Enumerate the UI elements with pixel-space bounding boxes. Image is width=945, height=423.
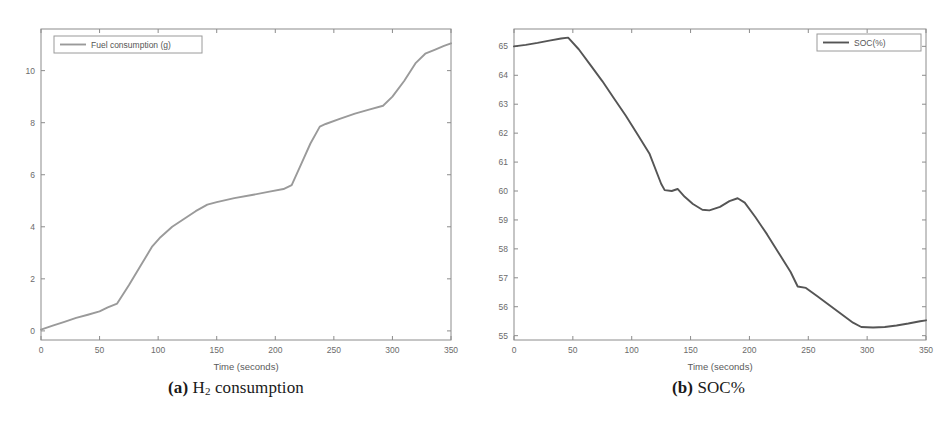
chart-a-svg: 0501001502002503003500246810Time (second… [0, 0, 472, 375]
x-tick-label: 150 [210, 345, 224, 355]
y-tick-label: 63 [499, 99, 509, 109]
chart-a-legend[interactable]: Fuel consumption (g) [54, 36, 202, 53]
y-tick-label: 55 [499, 331, 509, 341]
y-tick-label: 60 [499, 186, 509, 196]
caption-a-prefix: (a) [168, 378, 188, 397]
y-tick-label: 56 [499, 302, 509, 312]
legend-label: Fuel consumption (g) [91, 40, 171, 50]
y-tick-label: 61 [499, 157, 509, 167]
x-tick-label: 0 [39, 345, 44, 355]
chart-a-xaxis-label: Time (seconds) [213, 361, 278, 372]
x-tick-label: 300 [385, 345, 399, 355]
y-tick-label: 65 [499, 41, 509, 51]
chart-a-plot-area: 0501001502002503003500246810Time (second… [0, 0, 472, 375]
caption-a-subscript: 2 [205, 385, 211, 397]
panel-a: 0501001502002503003500246810Time (second… [0, 0, 472, 423]
y-tick-label: 64 [499, 70, 509, 80]
x-tick-label: 50 [568, 345, 578, 355]
y-tick-label: 8 [30, 118, 35, 128]
chart-a-axes-box [41, 29, 451, 340]
y-tick-label: 6 [30, 170, 35, 180]
y-tick-label: 10 [26, 66, 36, 76]
chart-b-xaxis-label: Time (seconds) [687, 361, 752, 372]
y-tick-label: 4 [30, 222, 35, 232]
x-tick-label: 50 [95, 345, 105, 355]
y-tick-label: 59 [499, 215, 509, 225]
caption-b: (b) SOC% [472, 378, 945, 398]
chart-b-axes-box [514, 29, 926, 340]
legend-label: SOC(%) [854, 38, 886, 48]
x-tick-label: 250 [801, 345, 815, 355]
caption-b-prefix: (b) [672, 378, 693, 397]
y-tick-label: 0 [30, 326, 35, 336]
y-tick-label: 2 [30, 274, 35, 284]
x-tick-label: 150 [683, 345, 697, 355]
y-tick-label: 58 [499, 244, 509, 254]
chart-b-svg: 0501001502002503003505556575859606162636… [472, 0, 945, 375]
figure-row: 0501001502002503003500246810Time (second… [0, 0, 945, 423]
x-tick-label: 0 [512, 345, 517, 355]
caption-b-text-pre: SOC% [697, 378, 745, 397]
y-tick-label: 57 [499, 273, 509, 283]
x-tick-label: 100 [151, 345, 165, 355]
x-tick-label: 200 [742, 345, 756, 355]
x-tick-label: 200 [268, 345, 282, 355]
x-tick-label: 350 [919, 345, 933, 355]
x-tick-label: 100 [625, 345, 639, 355]
caption-a-text-pre: H [193, 378, 205, 397]
panel-b: 0501001502002503003505556575859606162636… [472, 0, 945, 423]
x-tick-label: 250 [327, 345, 341, 355]
chart-b-plot-area: 0501001502002503003505556575859606162636… [472, 0, 945, 375]
y-tick-label: 62 [499, 128, 509, 138]
caption-a-text-post: consumption [211, 378, 304, 397]
chart-b-legend[interactable]: SOC(%) [817, 34, 921, 51]
x-tick-label: 350 [444, 345, 458, 355]
x-tick-label: 300 [860, 345, 874, 355]
caption-a: (a) H2 consumption [0, 378, 472, 398]
